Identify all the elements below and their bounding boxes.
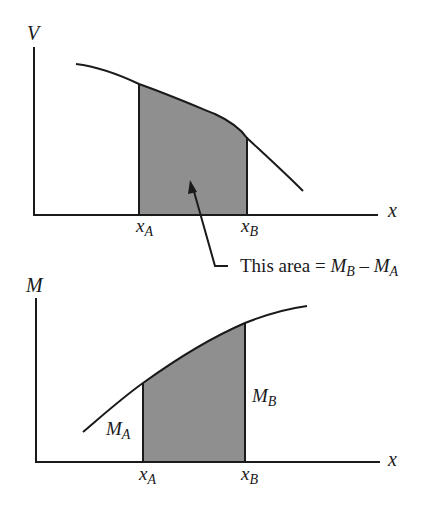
ma-label: MA bbox=[105, 418, 131, 442]
x-axis-label-bottom: x bbox=[387, 448, 397, 470]
v-axis-label: V bbox=[27, 22, 42, 44]
shear-moment-diagram: V x xA xB This area = MB – MA M x MA MB bbox=[0, 0, 444, 514]
m-axis-label: M bbox=[25, 274, 44, 296]
annotation-text: This area = MB – MA bbox=[240, 255, 399, 279]
shaded-area-moment bbox=[143, 323, 245, 462]
xa-label-top: xA bbox=[135, 215, 153, 239]
mb-label: MB bbox=[251, 385, 277, 409]
xb-label-bottom: xB bbox=[240, 463, 258, 487]
xa-label-bottom: xA bbox=[138, 463, 156, 487]
x-axis-label-top: x bbox=[387, 199, 397, 221]
moment-graph: M x MA MB xA xB bbox=[25, 274, 397, 487]
shaded-area-shear bbox=[139, 84, 247, 215]
shear-graph: V x xA xB bbox=[27, 22, 397, 239]
xb-label-top: xB bbox=[240, 215, 258, 239]
